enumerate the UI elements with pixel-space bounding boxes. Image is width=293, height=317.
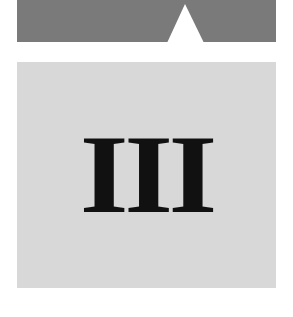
roman-numeral: III — [0, 118, 293, 230]
triangle-up-icon — [167, 4, 204, 43]
top-banner — [17, 0, 276, 42]
